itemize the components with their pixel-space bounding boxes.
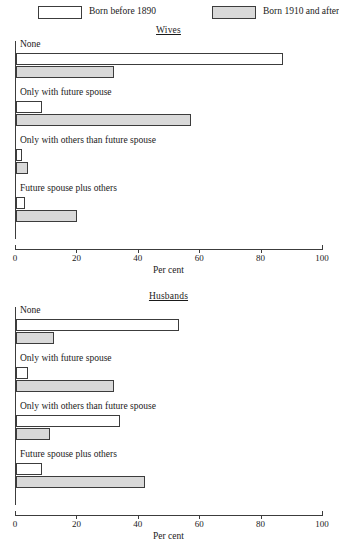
legend-label-born-before-1890: Born before 1890 <box>89 7 156 17</box>
bar-group-only-with-others: Only with others than future spouse <box>16 137 323 177</box>
bar-white <box>16 319 179 331</box>
bar-group-only-with-future-spouse: Only with future spouse <box>16 355 323 395</box>
bar-group-label: Only with others than future spouse <box>20 136 156 146</box>
axis-tick-label: 80 <box>256 520 265 529</box>
bar-group-future-spouse-plus-others: Future spouse plus others <box>16 451 323 491</box>
axis-tick-label: 20 <box>72 520 81 529</box>
legend-entry-born-before-1890: Born before 1890 <box>38 4 156 20</box>
bar-white <box>16 149 22 161</box>
bar-group-none: None <box>16 307 323 347</box>
bar-white <box>16 197 25 209</box>
bar-group-label: Only with others than future spouse <box>20 402 156 412</box>
axis-tick-label: 100 <box>315 254 329 263</box>
chart-legend: Born before 1890 Born 1910 and after <box>0 0 337 24</box>
bar-gray <box>16 162 28 174</box>
bar-group-label: Future spouse plus others <box>20 450 117 460</box>
bar-group-future-spouse-plus-others: Future spouse plus others <box>16 185 323 225</box>
axis-tick <box>15 245 16 250</box>
x-axis-husbands: 020406080100Per cent <box>15 515 322 516</box>
legend-entry-born-1910-and-after: Born 1910 and after <box>212 4 339 20</box>
legend-swatch-white <box>38 6 82 19</box>
bar-gray <box>16 210 77 222</box>
bar-group-label: Only with future spouse <box>20 354 112 364</box>
axis-tick-label: 80 <box>256 254 265 263</box>
axis-tick <box>15 511 16 516</box>
bar-gray <box>16 428 50 440</box>
bar-white <box>16 367 28 379</box>
bar-gray <box>16 66 114 78</box>
chart-title-husbands: Husbands <box>0 292 337 302</box>
bar-gray <box>16 332 54 344</box>
bar-group-label: None <box>20 40 41 50</box>
bar-gray <box>16 114 191 126</box>
axis-tick-label: 40 <box>133 520 142 529</box>
axis-tick <box>322 245 323 250</box>
x-axis-wives: 020406080100Per cent <box>15 249 322 250</box>
legend-swatch-gray <box>212 6 256 19</box>
plot-area-wives: None Only with future spouse Only with o… <box>15 41 323 239</box>
bar-white <box>16 463 42 475</box>
axis-title: Per cent <box>153 532 184 542</box>
bar-group-only-with-others: Only with others than future spouse <box>16 403 323 443</box>
axis-tick <box>322 511 323 516</box>
bar-group-only-with-future-spouse: Only with future spouse <box>16 89 323 129</box>
bar-group-none: None <box>16 41 323 81</box>
bar-gray <box>16 380 114 392</box>
chart-husbands: Husbands None Only with future spouse On… <box>0 292 337 505</box>
axis-tick-label: 60 <box>195 520 204 529</box>
bar-white <box>16 101 42 113</box>
bar-white <box>16 415 120 427</box>
axis-title: Per cent <box>153 266 184 276</box>
chart-wives: Wives None Only with future spouse Only … <box>0 26 337 239</box>
axis-tick-label: 40 <box>133 254 142 263</box>
axis-tick-label: 100 <box>315 520 329 529</box>
bar-white <box>16 53 283 65</box>
axis-tick-label: 60 <box>195 254 204 263</box>
axis-tick-label: 0 <box>13 520 18 529</box>
legend-label-born-1910-and-after: Born 1910 and after <box>263 7 339 17</box>
axis-tick-label: 0 <box>13 254 18 263</box>
bar-group-label: None <box>20 306 41 316</box>
chart-title-wives: Wives <box>0 26 337 36</box>
axis-tick-label: 20 <box>72 254 81 263</box>
bar-gray <box>16 476 145 488</box>
bar-group-label: Future spouse plus others <box>20 184 117 194</box>
bar-group-label: Only with future spouse <box>20 88 112 98</box>
plot-area-husbands: None Only with future spouse Only with o… <box>15 307 323 505</box>
